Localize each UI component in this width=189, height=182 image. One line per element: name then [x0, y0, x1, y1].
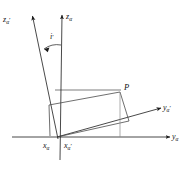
box-left-edge	[49, 105, 50, 136]
label-z-alpha-prime: zα′	[3, 16, 11, 24]
label-point-p: P	[124, 83, 129, 92]
coordinate-rotation-diagram: zα′ zα i′ P yα′ yα xα xα′	[0, 0, 189, 182]
box-bottom-edge	[57, 121, 129, 137]
label-y-alpha: yα	[172, 133, 178, 141]
box-right-edge	[120, 92, 129, 121]
diagram-canvas	[0, 0, 189, 182]
z-alpha-prime-axis-line	[33, 16, 59, 139]
label-y-alpha-prime: yα′	[163, 104, 171, 112]
label-x-alpha: xα	[43, 142, 49, 150]
label-z-alpha: zα	[66, 13, 72, 21]
z-alpha-axis-line	[60, 15, 62, 160]
label-x-alpha-prime: xα′	[64, 142, 72, 150]
y-alpha-prime-axis-line	[57, 108, 161, 137]
label-angle-i-prime: i′	[50, 33, 54, 41]
box-top-edge	[49, 92, 120, 105]
